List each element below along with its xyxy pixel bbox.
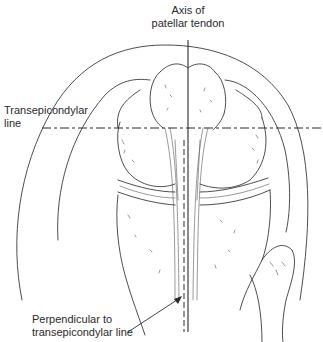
perpendicular-label: Perpendicular to transepicondylar line bbox=[32, 313, 133, 339]
perpendicular-label-line1: Perpendicular to bbox=[32, 313, 133, 326]
knee-diagram: Axis of patellar tendon Transepicondylar… bbox=[0, 0, 323, 342]
outer-skin-outline bbox=[17, 45, 308, 300]
medial-femoral-condyle bbox=[118, 122, 175, 187]
axis-of-patellar-tendon-label: Axis of patellar tendon bbox=[132, 4, 244, 30]
axis-label-line1: Axis of bbox=[132, 4, 244, 17]
axis-label-line2: patellar tendon bbox=[132, 17, 244, 30]
transepicondylar-label-line1: Transepicondylar bbox=[4, 104, 88, 117]
perpendicular-label-line2: transepicondylar line bbox=[32, 326, 133, 339]
fibula bbox=[250, 245, 294, 342]
lateral-femoral-condyle bbox=[200, 118, 266, 188]
patellar-tendon bbox=[165, 128, 208, 300]
knee-illustration bbox=[0, 0, 323, 342]
perpendicular-arrow bbox=[128, 298, 180, 332]
transepicondylar-line-label: Transepicondylar line bbox=[4, 104, 88, 130]
transepicondylar-label-line2: line bbox=[4, 117, 88, 130]
